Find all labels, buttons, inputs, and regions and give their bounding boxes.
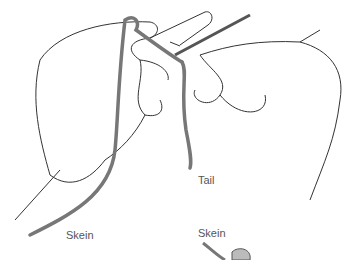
skein-ball <box>232 249 250 260</box>
label-tail: Tail <box>198 174 215 186</box>
direction-arrow <box>170 42 180 46</box>
right-hand <box>194 30 341 200</box>
yarn-skein-strand <box>30 18 182 235</box>
label-skein-left: Skein <box>66 229 94 241</box>
left-hand <box>15 12 212 220</box>
label-skein-right: Skein <box>198 227 226 239</box>
yarn-tail-strand <box>182 62 191 168</box>
crochet-illustration <box>0 0 363 260</box>
yarn-skein-right <box>203 243 225 260</box>
